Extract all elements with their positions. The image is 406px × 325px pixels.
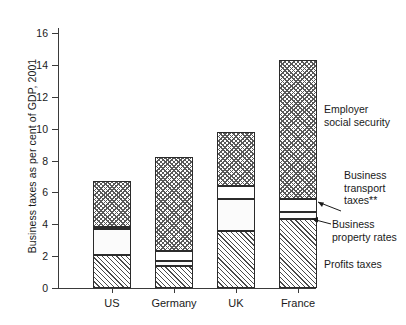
stacked-bar-chart: Business taxes as per cent of GDP, 2001 …: [0, 0, 406, 325]
annotation-leader-lines: [0, 0, 406, 325]
